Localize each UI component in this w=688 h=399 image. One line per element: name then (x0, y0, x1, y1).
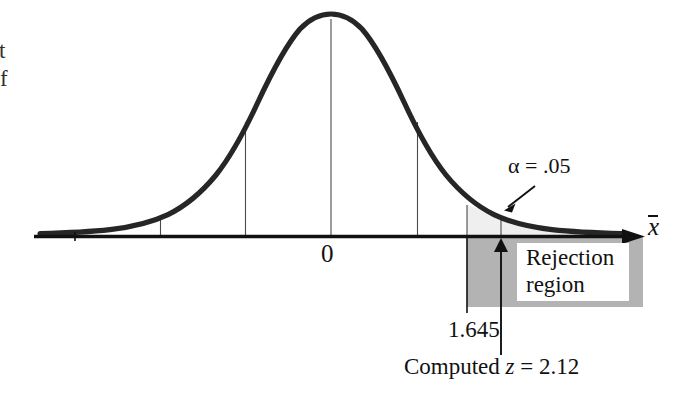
alpha-level-label: α = .05 (508, 155, 570, 177)
computed-z-symbol: z (506, 354, 515, 379)
alpha-pointer-arrow (504, 186, 535, 213)
computed-prefix: Computed (404, 354, 500, 379)
normal-distribution-figure: t f (0, 0, 688, 399)
rejection-region-label-line1: Rejection (526, 245, 629, 272)
computed-equals: = (520, 354, 533, 379)
x-bar-glyph: x (648, 214, 659, 240)
rejection-region-label-line2: region (526, 272, 629, 299)
critical-value-label: 1.645 (448, 318, 500, 341)
ordinate-lines (161, 19, 502, 236)
rejection-region-label-box: Rejection region (517, 243, 629, 301)
chart-canvas (0, 0, 688, 399)
computed-value: 2.12 (539, 354, 579, 379)
x-bar-axis-label: x (648, 214, 659, 240)
computed-z-label: Computed z = 2.12 (404, 355, 579, 378)
axis-origin-label: 0 (321, 241, 334, 267)
